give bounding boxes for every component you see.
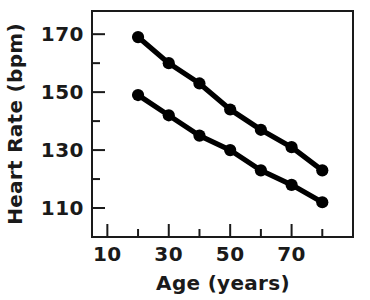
data-point-marker (163, 57, 175, 69)
x-tick-label: 70 (277, 242, 306, 266)
data-point-marker (132, 89, 144, 101)
data-point-marker (193, 77, 205, 89)
y-axis-title: Heart Rate (bpm) (3, 23, 27, 225)
x-tick-label: 50 (216, 242, 245, 266)
y-tick-label: 150 (41, 80, 84, 104)
data-point-marker (132, 31, 144, 43)
data-point-marker (285, 179, 297, 191)
x-tick-label: 30 (154, 242, 183, 266)
data-point-marker (316, 196, 328, 208)
x-tick-label: 10 (93, 242, 122, 266)
data-point-marker (255, 124, 267, 136)
data-point-marker (255, 164, 267, 176)
chart-figure: 110130150170 10305070 Age (years) Heart … (0, 0, 370, 300)
y-tick-label: 130 (41, 138, 84, 162)
data-point-marker (163, 109, 175, 121)
x-axis-title: Age (years) (156, 271, 290, 295)
data-point-marker (193, 129, 205, 141)
data-point-marker (316, 164, 328, 176)
data-point-marker (224, 144, 236, 156)
y-tick-label: 110 (41, 196, 84, 220)
y-tick-label: 170 (41, 22, 84, 46)
data-point-marker (224, 103, 236, 115)
heart-rate-vs-age-line-chart: 110130150170 10305070 Age (years) Heart … (0, 0, 370, 300)
data-point-marker (285, 141, 297, 153)
